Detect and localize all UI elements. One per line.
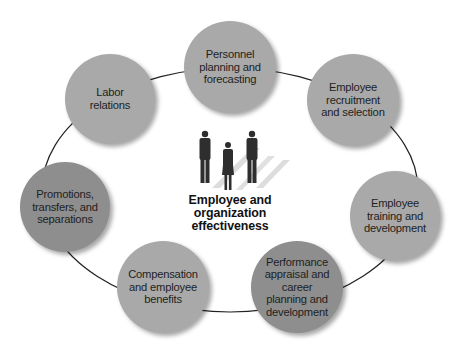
- node-label-line: Labor: [90, 86, 131, 99]
- node-label-line: development: [364, 222, 426, 235]
- node-label-line: benefits: [128, 293, 198, 306]
- node-label-line: Promotions,: [32, 188, 98, 201]
- node-compensation: Compensationand employeebenefits: [117, 241, 209, 333]
- center-title-line: effectiveness: [168, 220, 292, 233]
- node-label-line: planning and: [199, 61, 261, 74]
- node-labor: Laborrelations: [65, 54, 155, 144]
- center-title: Employee and organization effectiveness: [168, 194, 292, 232]
- node-label-line: and selection: [321, 106, 384, 119]
- node-label-line: Personnel: [199, 48, 261, 61]
- node-label-line: career: [265, 281, 330, 294]
- node-performance: Performanceappraisal andcareerplanning a…: [251, 241, 343, 333]
- node-label-line: planning and: [265, 293, 330, 306]
- node-label-line: Compensation: [128, 268, 198, 281]
- node-label: Promotions,transfers, andseparations: [24, 188, 106, 226]
- node-label: Laborrelations: [82, 86, 139, 111]
- people-group-icon: [190, 130, 290, 190]
- center-title-line: organization: [168, 207, 292, 220]
- node-label-line: transfers, and: [32, 201, 98, 214]
- node-recruitment: Employeerecruitmentand selection: [307, 54, 399, 146]
- node-promotions: Promotions,transfers, andseparations: [20, 162, 110, 252]
- node-label: Employeerecruitmentand selection: [313, 81, 392, 119]
- node-label: Employeetraining anddevelopment: [356, 197, 434, 235]
- node-training: Employeetraining anddevelopment: [350, 171, 440, 261]
- hr-functions-diagram: Employee and organization effectiveness …: [0, 0, 461, 352]
- node-label-line: appraisal and: [265, 268, 330, 281]
- node-label: Compensationand employeebenefits: [120, 268, 206, 306]
- node-label-line: Employee: [321, 81, 384, 94]
- node-label-line: Employee: [364, 197, 426, 210]
- center-title-line: Employee and: [168, 194, 292, 207]
- node-label-line: and employee: [128, 281, 198, 294]
- node-label-line: relations: [90, 99, 131, 112]
- node-label-line: training and: [364, 210, 426, 223]
- node-label-line: forecasting: [199, 73, 261, 86]
- node-label: Performanceappraisal andcareerplanning a…: [257, 256, 338, 319]
- node-planning: Personnelplanning andforecasting: [184, 21, 276, 113]
- node-label-line: recruitment: [321, 94, 384, 107]
- node-label-line: Performance: [265, 256, 330, 269]
- node-label-line: development: [265, 306, 330, 319]
- node-label-line: separations: [32, 213, 98, 226]
- node-label: Personnelplanning andforecasting: [191, 48, 269, 86]
